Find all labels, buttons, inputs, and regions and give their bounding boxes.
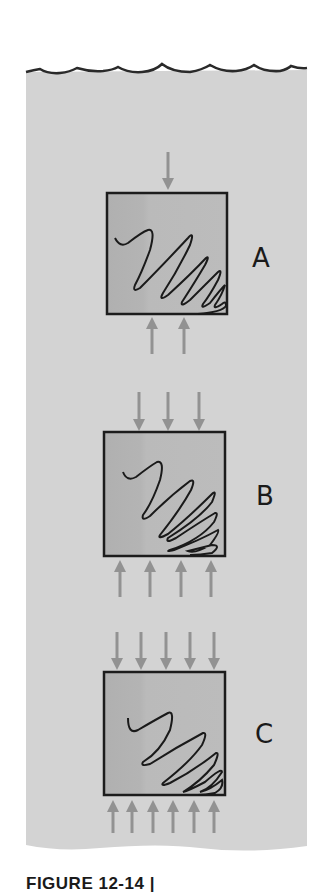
figure-caption: FIGURE 12-14 | [26, 874, 155, 893]
pressure-diagram: A B C [0, 0, 329, 893]
sample-box [104, 432, 225, 556]
panel-label: C [255, 719, 273, 749]
sample-box [104, 672, 225, 795]
panel-label: A [252, 243, 270, 273]
panel-label: B [256, 481, 274, 511]
